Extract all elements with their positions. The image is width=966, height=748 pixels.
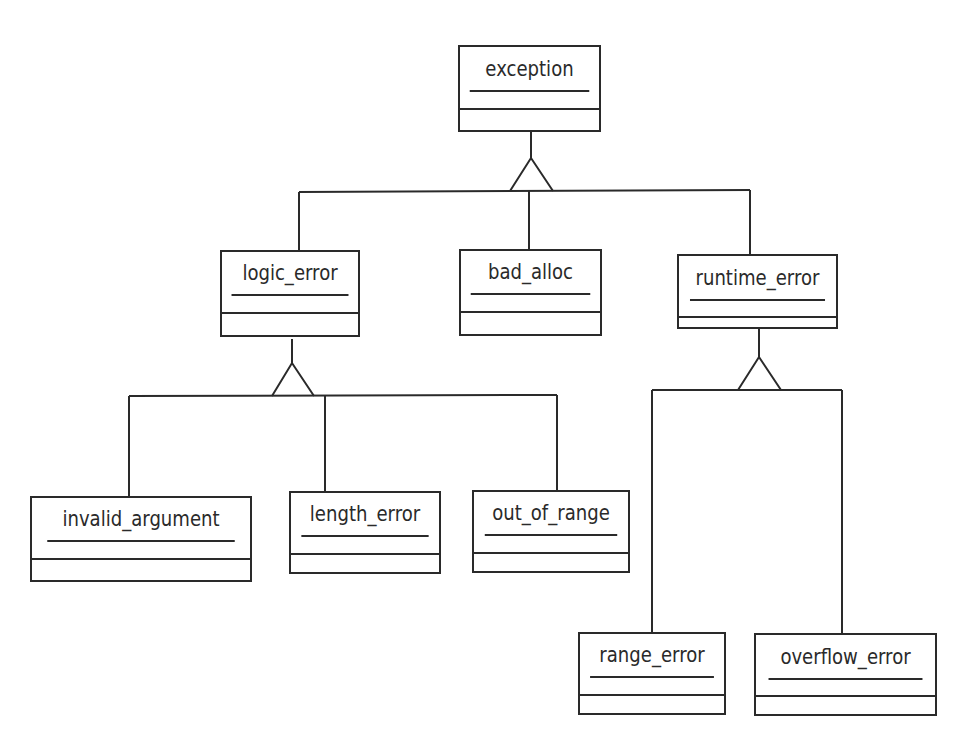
attributes-compartment [291,537,439,555]
class-diagram-canvas: exception logic_error bad_alloc runtime_… [0,0,966,748]
exception-generalization [299,132,750,254]
logic-error-generalization [129,339,557,496]
class-name: invalid_argument [47,498,234,542]
operations-compartment [474,554,628,571]
operations-compartment [32,560,250,580]
class-name: logic_error [232,252,349,296]
attributes-compartment [756,680,935,697]
operations-compartment [460,110,599,130]
class-logic-error[interactable]: logic_error [220,250,360,337]
attributes-compartment [474,536,628,554]
class-name: range_error [590,634,714,678]
class-name: length_error [301,493,428,537]
operations-compartment [461,313,600,334]
operations-compartment [291,555,439,572]
operations-compartment [679,318,836,327]
attributes-compartment [32,542,250,560]
class-out-of-range[interactable]: out_of_range [472,490,630,573]
class-range-error[interactable]: range_error [578,632,726,715]
attributes-compartment [222,296,358,314]
class-runtime-error[interactable]: runtime_error [677,254,838,329]
inheritance-triangle-icon [510,158,553,191]
class-name: bad_alloc [471,251,591,295]
class-invalid-argument[interactable]: invalid_argument [30,496,252,582]
class-name: exception [470,47,590,92]
class-name: out_of_range [485,492,617,536]
inheritance-triangle-icon [272,363,314,396]
inheritance-triangle-icon [738,357,781,390]
attributes-compartment [679,301,836,318]
attributes-compartment [580,678,724,696]
class-bad-alloc[interactable]: bad_alloc [459,249,602,336]
attributes-compartment [460,92,599,110]
attributes-compartment [461,295,600,313]
class-name: runtime_error [690,256,825,301]
operations-compartment [222,314,358,335]
operations-compartment [756,697,935,714]
operations-compartment [580,696,724,713]
class-name: overflow_error [769,635,923,680]
runtime-error-generalization [652,329,842,633]
class-overflow-error[interactable]: overflow_error [754,633,937,716]
class-length-error[interactable]: length_error [289,491,441,574]
class-exception[interactable]: exception [458,45,601,132]
